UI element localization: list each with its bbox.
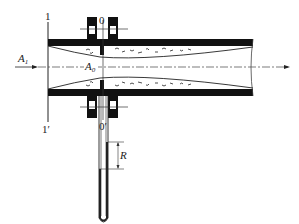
streamline-bottom	[48, 77, 253, 89]
pipe-top-wall	[48, 39, 253, 46]
pipe-bottom-wall	[48, 89, 253, 96]
area-1-label: A1	[17, 52, 28, 66]
manometer-reading-label: R	[119, 149, 127, 161]
manometer-fluid-left	[99, 169, 101, 218]
flange-top-right-inner	[110, 26, 116, 34]
streamline-top	[48, 46, 253, 58]
orifice-plate-bottom	[100, 80, 104, 96]
flange-bottom-right-inner	[110, 101, 116, 109]
manometer-fluid-right	[106, 142, 108, 218]
inlet-arrow-head-icon	[32, 65, 38, 69]
section-1-prime-label: 1′	[42, 123, 50, 135]
u-tube-manometer	[99, 96, 108, 222]
flange-bottom-left-inner	[89, 101, 95, 109]
section-1-label: 1	[45, 10, 51, 22]
flow-arrow-right-icon	[284, 65, 290, 69]
section-0-label: 0	[99, 14, 105, 26]
flange-top-left-inner	[89, 26, 95, 34]
orifice-meter-diagram: 1 1′ 0 0′ A1 A0	[0, 0, 299, 224]
orifice-plate-top	[100, 39, 104, 55]
